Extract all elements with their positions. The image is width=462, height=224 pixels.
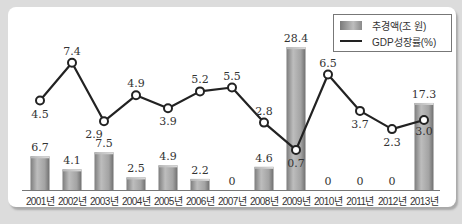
bar-value-label: 4.9 xyxy=(159,150,177,163)
bar-value-label: 17.3 xyxy=(412,88,437,101)
legend-bar-label: 추경액(조 원) xyxy=(372,18,426,33)
legend-line-label: GDP성장률(%) xyxy=(372,34,436,49)
gdp-value-label: 4.5 xyxy=(31,108,49,121)
bar-value-label: 6.7 xyxy=(31,141,49,154)
x-tick-label: 2013년 xyxy=(410,196,439,207)
bar-top xyxy=(255,167,274,169)
legend: 추경액(조 원) GDP성장률(%) xyxy=(333,14,452,52)
gdp-marker xyxy=(100,117,108,125)
gdp-marker xyxy=(388,125,396,133)
legend-bar-swatch xyxy=(340,21,362,30)
bar-value-label: 4.1 xyxy=(63,154,81,167)
x-tick-label: 2005년 xyxy=(154,196,183,207)
gdp-value-label: 2.8 xyxy=(255,105,273,118)
bar-top xyxy=(95,152,114,154)
x-tick-label: 2008년 xyxy=(250,196,279,207)
bar-top xyxy=(415,103,434,105)
gdp-marker xyxy=(68,59,76,67)
gdp-marker xyxy=(420,116,428,124)
x-tick-label: 2007년 xyxy=(218,196,247,207)
bar-value-label: 2.5 xyxy=(127,162,145,175)
gdp-value-label: 2.3 xyxy=(383,136,401,149)
bar-value-label: 28.4 xyxy=(284,32,309,45)
gdp-value-label: 3.9 xyxy=(159,115,177,128)
bar-top xyxy=(31,156,50,158)
gdp-marker xyxy=(260,119,268,127)
bar xyxy=(31,156,50,190)
gdp-value-labels: 4.57.42.94.93.95.25.52.80.76.53.72.33.0 xyxy=(31,45,433,170)
gdp-marker xyxy=(228,84,236,92)
legend-item-bar: 추경액(조 원) xyxy=(340,18,426,32)
bar-top xyxy=(159,165,178,167)
x-tick-label: 2001년 xyxy=(26,196,55,207)
gdp-value-label: 7.4 xyxy=(63,45,81,58)
gdp-value-label: 3.7 xyxy=(351,118,369,131)
gdp-marker xyxy=(132,91,140,99)
x-tick-label: 2002년 xyxy=(58,196,87,207)
x-tick-label: 2009년 xyxy=(282,196,311,207)
x-tick-label: 2006년 xyxy=(186,196,215,207)
x-tick-label: 2012년 xyxy=(378,196,407,207)
bar-value-label: 0 xyxy=(229,175,236,188)
bar-top xyxy=(191,179,210,181)
bar-value-label: 4.6 xyxy=(255,152,273,165)
bar-value-labels: 6.74.17.52.54.92.204.628.400017.3 xyxy=(31,32,436,188)
bar-value-label: 0 xyxy=(357,175,364,188)
bar-top xyxy=(63,169,82,171)
bar xyxy=(63,169,82,190)
bar-value-label: 2.2 xyxy=(191,164,209,177)
legend-line-swatch xyxy=(340,40,362,42)
x-tick-label: 2010년 xyxy=(314,196,343,207)
legend-item-line: GDP성장률(%) xyxy=(340,34,436,48)
gdp-marker xyxy=(196,87,204,95)
gdp-marker xyxy=(164,104,172,112)
bar xyxy=(95,152,114,190)
gdp-marker xyxy=(292,146,300,154)
x-tick-label: 2003년 xyxy=(90,196,119,207)
bar-top xyxy=(127,177,146,179)
gdp-value-label: 4.9 xyxy=(127,77,145,90)
x-axis-tick-labels: 2001년2002년2003년2004년2005년2006년2007년2008년… xyxy=(26,196,439,207)
bar xyxy=(159,165,178,190)
gdp-value-label: 6.5 xyxy=(319,57,337,70)
gdp-value-label: 2.9 xyxy=(85,128,103,141)
bar-value-label: 0 xyxy=(389,175,396,188)
bar-top xyxy=(287,47,306,49)
x-tick-label: 2004년 xyxy=(122,196,151,207)
gdp-value-label: 3.0 xyxy=(415,125,433,138)
bar-value-label: 0 xyxy=(325,175,332,188)
x-tick-label: 2011년 xyxy=(346,196,374,207)
gdp-marker xyxy=(356,107,364,115)
gdp-marker xyxy=(36,97,44,105)
bar xyxy=(255,167,274,190)
gdp-marker xyxy=(324,71,332,79)
gdp-value-label: 5.5 xyxy=(223,70,241,83)
gdp-value-label: 5.2 xyxy=(191,73,209,86)
gdp-value-label: 0.7 xyxy=(287,157,305,170)
